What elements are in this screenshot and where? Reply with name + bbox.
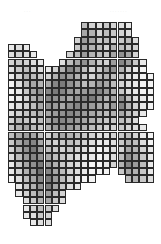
mosaic-cell: [30, 66, 37, 73]
mosaic-cell: [30, 168, 37, 175]
mosaic-cell: [132, 146, 139, 153]
mosaic-cell: [45, 95, 52, 102]
mosaic-cell: [81, 161, 88, 168]
mosaic-cell: [125, 168, 132, 175]
mosaic-cell: [132, 66, 139, 73]
mosaic-cell: [118, 95, 125, 102]
mosaic-cell: [30, 197, 37, 204]
mosaic-cell: [110, 59, 117, 66]
mosaic-cell: [125, 95, 132, 102]
mosaic-cell: [139, 161, 146, 168]
mosaic-cell: [66, 59, 73, 66]
mosaic-cell: [23, 117, 30, 124]
mosaic-cell: [15, 117, 22, 124]
mosaic-cell: [59, 161, 66, 168]
mosaic-cell: [15, 73, 22, 80]
mosaic-cell: [103, 73, 110, 80]
mosaic-cell: [23, 51, 30, 58]
mosaic-cell: [37, 146, 44, 153]
mosaic-cell: [81, 88, 88, 95]
mosaic-cell: [59, 88, 66, 95]
mosaic-cell: [88, 51, 95, 58]
mosaic-cell: [125, 22, 132, 29]
mosaic-cell: [96, 117, 103, 124]
mosaic-cell: [103, 161, 110, 168]
mosaic-cell: [118, 80, 125, 87]
mosaic-cell: [15, 168, 22, 175]
mosaic-cell: [23, 132, 30, 139]
mosaic-cell: [103, 29, 110, 36]
mosaic-cell: [66, 146, 73, 153]
mosaic-cell: [8, 146, 15, 153]
mosaic-cell: [45, 88, 52, 95]
mosaic-cell: [30, 146, 37, 153]
mosaic-cell: [15, 190, 22, 197]
mosaic-cell: [23, 95, 30, 102]
mosaic-cell: [110, 153, 117, 160]
mosaic-cell: [74, 153, 81, 160]
mosaic-cell: [30, 102, 37, 109]
mosaic-cell: [37, 80, 44, 87]
mosaic-cell: [37, 59, 44, 66]
mosaic-cell: [132, 88, 139, 95]
mosaic-cell: [45, 197, 52, 204]
mosaic-cell: [147, 175, 154, 182]
mosaic-cell: [74, 110, 81, 117]
mosaic-cell: [88, 44, 95, 51]
mosaic-cell: [81, 73, 88, 80]
mosaic-cell: [88, 66, 95, 73]
mosaic-cell: [23, 161, 30, 168]
mosaic-cell: [147, 139, 154, 146]
mosaic-cell: [103, 37, 110, 44]
mosaic-cell: [88, 95, 95, 102]
mosaic-cell: [52, 102, 59, 109]
mosaic-cell: [103, 59, 110, 66]
mosaic-cell: [45, 139, 52, 146]
mosaic-cell: [125, 88, 132, 95]
mosaic-cell: [30, 132, 37, 139]
mosaic-cell: [66, 161, 73, 168]
mosaic-cell: [23, 212, 30, 219]
mosaic-cell: [45, 205, 52, 212]
mosaic-cell: [23, 66, 30, 73]
mosaic-cell: [132, 73, 139, 80]
mosaic-cell: [37, 102, 44, 109]
mosaic-cell: [30, 161, 37, 168]
mosaic-cell: [59, 117, 66, 124]
mosaic-cell: [52, 66, 59, 73]
mosaic-cell: [81, 132, 88, 139]
mosaic-cell: [81, 102, 88, 109]
mosaic-cell: [66, 95, 73, 102]
mosaic-cell: [66, 183, 73, 190]
mosaic-cell: [37, 183, 44, 190]
mosaic-cell: [74, 95, 81, 102]
mosaic-cell: [125, 102, 132, 109]
mosaic-cell: [23, 59, 30, 66]
mosaic-cell: [88, 175, 95, 182]
mosaic-cell: [103, 132, 110, 139]
mosaic-cell: [15, 161, 22, 168]
mosaic-cell: [103, 117, 110, 124]
mosaic-cell: [8, 139, 15, 146]
mosaic-cell: [59, 124, 66, 131]
mosaic-cell: [125, 73, 132, 80]
mosaic-cell: [147, 146, 154, 153]
mosaic-cell: [139, 95, 146, 102]
mosaic-cell: [118, 102, 125, 109]
mosaic-cell: [23, 205, 30, 212]
mosaic-cell: [125, 153, 132, 160]
mosaic-cell: [23, 124, 30, 131]
mosaic-cell: [74, 117, 81, 124]
mosaic-cell: [59, 139, 66, 146]
mosaic-cell: [45, 183, 52, 190]
mosaic-cell: [125, 124, 132, 131]
mosaic-cell: [15, 110, 22, 117]
mosaic-cell: [147, 102, 154, 109]
mosaic-cell: [23, 88, 30, 95]
mosaic-cell: [15, 66, 22, 73]
mosaic-cell: [52, 132, 59, 139]
mosaic-cell: [81, 44, 88, 51]
mosaic-grid: [0, 0, 161, 244]
mosaic-cell: [81, 124, 88, 131]
mosaic-cell: [23, 102, 30, 109]
